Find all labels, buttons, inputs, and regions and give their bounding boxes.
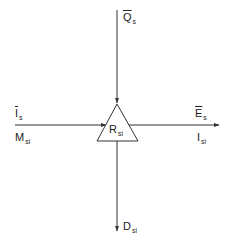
right-output-label-top-main: E	[195, 107, 202, 119]
top-input-label-sub: s	[133, 18, 137, 25]
diagram-canvas	[0, 0, 228, 242]
node-label-sub: si	[118, 130, 123, 137]
right-output-label-top: Es	[195, 108, 207, 123]
right-output-label-bottom-main: I	[197, 131, 200, 143]
bottom-output-label: Dsi	[123, 221, 137, 236]
right-output-label-top-sub: s	[203, 114, 207, 121]
left-input-label-bottom: Msi	[15, 132, 30, 147]
left-input-label-bottom-sub: si	[25, 138, 30, 145]
node-label: Rsi	[109, 124, 123, 139]
node-label-main: R	[109, 123, 117, 135]
right-output-label-bottom: Isi	[197, 132, 206, 147]
left-input-label-top-sub: s	[19, 114, 23, 121]
left-input-label-top: Is	[15, 108, 23, 123]
bottom-output-label-sub: si	[132, 227, 137, 234]
top-input-label-main: Q	[123, 11, 132, 23]
top-input-label: Qs	[123, 12, 136, 27]
left-input-label-top-main: I	[15, 107, 18, 119]
left-input-label-bottom-main: M	[15, 131, 24, 143]
right-output-label-bottom-sub: si	[201, 138, 206, 145]
bottom-output-label-main: D	[123, 220, 131, 232]
